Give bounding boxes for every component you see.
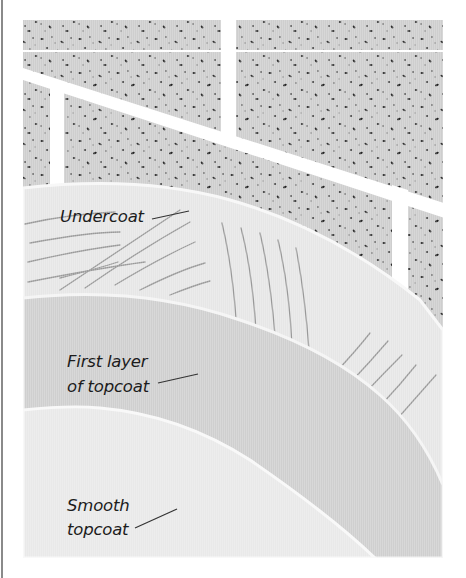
smooth-topcoat-label: Smooth topcoat — [67, 494, 129, 542]
first-layer-label-line2: of topcoat — [67, 374, 149, 399]
undercoat-label: Undercoat — [60, 206, 144, 227]
undercoat-label-text: Undercoat — [60, 206, 144, 227]
plaster-layers-illustration — [0, 0, 466, 578]
first-layer-topcoat-label: First layer of topcoat — [67, 349, 149, 399]
smooth-topcoat-label-line1: Smooth — [67, 494, 129, 518]
smooth-topcoat-label-line2: topcoat — [67, 518, 129, 542]
first-layer-label-line1: First layer — [67, 349, 149, 374]
